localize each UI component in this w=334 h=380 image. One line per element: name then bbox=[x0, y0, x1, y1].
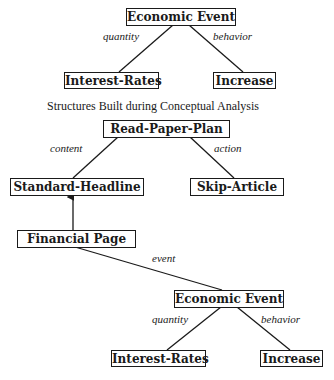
edge-label-quantity-bottom: quantity bbox=[152, 313, 188, 325]
node-read-paper-plan: Read-Paper-Plan bbox=[103, 120, 230, 138]
edge-label-quantity-top: quantity bbox=[103, 30, 139, 42]
node-standard-headline: Standard-Headline bbox=[10, 178, 144, 196]
node-economic-event-bottom: Economic Event bbox=[174, 290, 284, 308]
node-financial-page: Financial Page bbox=[17, 230, 136, 248]
node-interest-rates-top: Interest-Rates bbox=[64, 72, 159, 89]
node-economic-event-top: Economic Event bbox=[126, 8, 236, 26]
edge-label-action: action bbox=[214, 142, 242, 154]
node-increase-bottom: Increase bbox=[260, 350, 323, 367]
node-interest-rates-bottom: Interest-Rates bbox=[111, 350, 206, 367]
node-increase-top: Increase bbox=[213, 72, 276, 89]
edge-label-behavior-top: behavior bbox=[213, 30, 252, 42]
node-skip-article: Skip-Article bbox=[190, 178, 284, 196]
figure-caption: Structures Built during Conceptual Analy… bbox=[47, 99, 259, 114]
edge-label-event: event bbox=[152, 252, 175, 264]
edge-label-behavior-bottom: behavior bbox=[261, 313, 300, 325]
edge-label-content: content bbox=[50, 142, 82, 154]
